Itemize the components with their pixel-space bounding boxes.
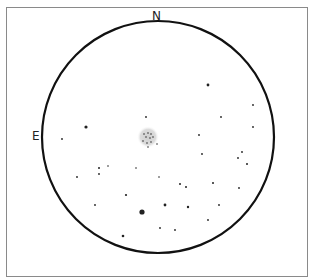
star: [185, 186, 187, 188]
star: [164, 204, 167, 207]
star: [122, 235, 125, 238]
cluster-star: [147, 132, 149, 134]
star: [252, 126, 254, 128]
cluster-star: [152, 136, 154, 138]
cluster-star: [149, 137, 151, 139]
star: [252, 104, 254, 106]
cluster-star: [146, 142, 148, 144]
star: [238, 187, 240, 189]
cluster-star: [150, 141, 152, 143]
star: [94, 204, 96, 206]
east-label: E: [32, 129, 40, 143]
star: [145, 116, 147, 118]
star: [174, 229, 176, 231]
star: [98, 173, 100, 175]
star: [207, 84, 210, 87]
star: [237, 157, 239, 159]
star: [98, 167, 100, 169]
star: [212, 182, 214, 184]
star: [158, 176, 160, 178]
star: [84, 125, 87, 128]
star: [218, 204, 220, 206]
star: [241, 151, 243, 153]
star: [61, 138, 63, 140]
star: [207, 219, 209, 221]
cluster-star: [156, 143, 158, 145]
star: [139, 209, 144, 214]
cluster-star: [142, 140, 144, 142]
star: [125, 194, 127, 196]
cluster-star: [147, 146, 149, 148]
star: [159, 227, 161, 229]
cluster-star: [145, 136, 147, 138]
star: [107, 165, 109, 167]
star: [187, 206, 189, 208]
cluster-star: [143, 133, 145, 135]
star: [179, 183, 181, 185]
star: [201, 153, 203, 155]
star: [135, 167, 137, 169]
star: [198, 134, 200, 136]
cluster-star: [150, 133, 152, 135]
star: [246, 163, 248, 165]
star: [220, 116, 222, 118]
nebula-glow: [137, 126, 159, 148]
north-label: N: [152, 9, 161, 23]
field-stars: [61, 84, 254, 238]
star: [76, 176, 78, 178]
